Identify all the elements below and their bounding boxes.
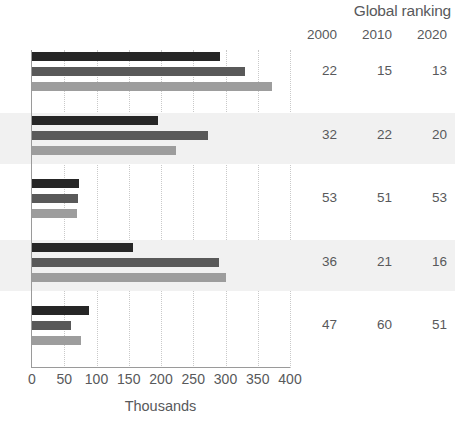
bar-2010 — [32, 131, 208, 140]
rank-cell-2000: 32 — [286, 127, 341, 142]
x-tick-label: 200 — [149, 371, 172, 387]
bar-2020 — [32, 273, 226, 282]
rank-cell-2000: 36 — [286, 254, 341, 269]
rank-cell-2020: 16 — [396, 254, 451, 269]
rank-cell-2020: 20 — [396, 127, 451, 142]
side-table-title: Global ranking — [236, 2, 451, 20]
bar-2000 — [32, 243, 133, 252]
x-axis-tick-labels: 050100150200250300350400 — [0, 371, 310, 391]
bar-2010 — [32, 194, 78, 203]
bar-2010 — [32, 321, 71, 330]
bar-2000 — [32, 52, 220, 61]
x-tick-label: 300 — [214, 371, 237, 387]
rank-cell-2020: 51 — [396, 317, 451, 332]
x-tick-label: 150 — [117, 371, 140, 387]
rank-cell-2010: 22 — [341, 127, 396, 142]
bar-2000 — [32, 179, 79, 188]
bar-2020 — [32, 146, 176, 155]
rank-cell-2000: 53 — [286, 190, 341, 205]
side-table-row: 322220 — [286, 127, 451, 142]
side-table-row: 362116 — [286, 254, 451, 269]
bar-2020 — [32, 209, 77, 218]
bar-2020 — [32, 82, 272, 91]
bar-2000 — [32, 116, 158, 125]
chart-figure: Global ranking 2000 2010 2020 2215133222… — [0, 0, 455, 428]
side-table-row: 535153 — [286, 190, 451, 205]
side-table-row: 221513 — [286, 63, 451, 78]
side-table-column-headers: 2000 2010 2020 — [286, 27, 451, 42]
column-header-2000: 2000 — [286, 27, 341, 42]
column-header-2020: 2020 — [396, 27, 451, 42]
x-tick-label: 100 — [85, 371, 108, 387]
rank-cell-2010: 51 — [341, 190, 396, 205]
x-tick-label: 0 — [28, 371, 36, 387]
rank-cell-2010: 21 — [341, 254, 396, 269]
bar-2010 — [32, 258, 219, 267]
column-header-2010: 2010 — [341, 27, 396, 42]
x-tick-label: 250 — [182, 371, 205, 387]
rank-cell-2020: 53 — [396, 190, 451, 205]
x-axis-title: Thousands — [31, 398, 290, 414]
rank-cell-2010: 15 — [341, 63, 396, 78]
bar-2020 — [32, 336, 81, 345]
x-tick-label: 50 — [56, 371, 72, 387]
x-tick-label: 350 — [246, 371, 269, 387]
rank-cell-2020: 13 — [396, 63, 451, 78]
rank-cell-2010: 60 — [341, 317, 396, 332]
x-tick-label: 400 — [278, 371, 301, 387]
side-table-row: 476051 — [286, 317, 451, 332]
bar-2000 — [32, 306, 89, 315]
rank-cell-2000: 22 — [286, 63, 341, 78]
plot-area: 221513322220535153362116476051 — [0, 50, 455, 368]
bar-2010 — [32, 67, 245, 76]
rank-cell-2000: 47 — [286, 317, 341, 332]
x-axis-line — [31, 367, 290, 368]
